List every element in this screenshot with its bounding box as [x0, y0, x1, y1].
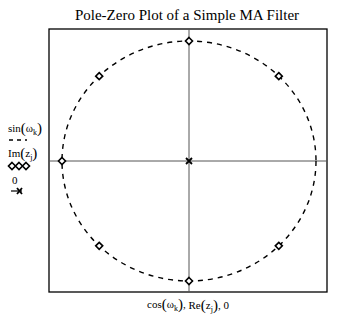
- legend-label-sin: sin(ωk): [8, 120, 42, 137]
- zero-marker: [59, 158, 66, 165]
- legend-label-im: Im(zj): [8, 145, 37, 162]
- x-axis-label: cos(ωk), Re(zj), 0: [147, 296, 229, 314]
- legend-item-im: Im(zj): [8, 145, 37, 170]
- zero-marker: [186, 38, 193, 45]
- zero-marker: [186, 278, 193, 285]
- legend-label-zero: 0: [12, 174, 18, 186]
- legend: sin(ωk) Im(zj) 0: [8, 120, 42, 194]
- zero-marker: [96, 73, 103, 80]
- zero-marker: [96, 242, 103, 249]
- pole-zero-chart: Pole-Zero Plot of a Simple MA Filter sin…: [0, 0, 343, 326]
- legend-item-zero: 0: [11, 174, 22, 194]
- legend-item-sin: sin(ωk): [8, 120, 42, 140]
- chart-title: Pole-Zero Plot of a Simple MA Filter: [75, 7, 299, 23]
- zero-marker: [23, 163, 30, 170]
- legend-diamond-sample: [9, 163, 30, 170]
